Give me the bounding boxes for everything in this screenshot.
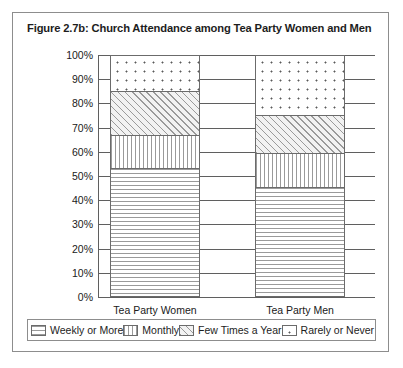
- legend-swatch-diagonal-hatch-icon: [179, 325, 194, 336]
- legend-swatch-horizontal-lines-icon: [31, 325, 46, 336]
- legend-item-rarely-or-never[interactable]: Rarely or Never: [282, 324, 375, 336]
- ytick-label-70: 70%: [72, 122, 93, 134]
- ytick-label-80: 80%: [72, 97, 93, 109]
- xtick-label-tea-party-women: Tea Party Women: [110, 304, 200, 316]
- ytick-label-30: 30%: [72, 218, 93, 230]
- legend-item-few-times-a-year[interactable]: Few Times a Year: [179, 324, 281, 336]
- chart-title: Figure 2.7b: Church Attendance among Tea…: [27, 22, 372, 34]
- legend-label-weekly-or-more: Weekly or More: [50, 324, 123, 336]
- ytick-label-40: 40%: [72, 194, 93, 206]
- bar-tea-party-women[interactable]: [110, 55, 200, 297]
- ytick-label-10: 10%: [72, 267, 93, 279]
- gridline-0: 0%: [99, 297, 375, 298]
- ytick-label-90: 90%: [72, 73, 93, 85]
- segment-men-rarely-or-never[interactable]: [256, 56, 344, 116]
- segment-men-few-times-a-year[interactable]: [256, 116, 344, 154]
- legend-swatch-dots-icon: [282, 325, 297, 336]
- ytick-label-0: 0%: [78, 291, 93, 303]
- legend-label-monthly: Monthly: [142, 324, 179, 336]
- ytick-label-20: 20%: [72, 243, 93, 255]
- legend-item-weekly-or-more[interactable]: Weekly or More: [31, 324, 123, 336]
- plot-area: 100% 90% 80% 70% 60% 50% 40% 30% 20% 10%: [99, 55, 375, 297]
- legend-label-rarely-or-never: Rarely or Never: [301, 324, 375, 336]
- segment-women-weekly-or-more[interactable]: [111, 169, 199, 296]
- segment-men-weekly-or-more[interactable]: [256, 188, 344, 296]
- segment-women-monthly[interactable]: [111, 136, 199, 168]
- legend-item-monthly[interactable]: Monthly: [123, 324, 179, 336]
- segment-men-monthly[interactable]: [256, 154, 344, 188]
- figure-frame: Figure 2.7b: Church Attendance among Tea…: [12, 12, 389, 352]
- segment-women-few-times-a-year[interactable]: [111, 92, 199, 136]
- ytick-label-60: 60%: [72, 146, 93, 158]
- ytick-label-100: 100%: [66, 49, 93, 61]
- ytick-label-50: 50%: [72, 170, 93, 182]
- chart-legend: Weekly or More Monthly Few Times a Year …: [27, 319, 376, 341]
- bar-tea-party-men[interactable]: [255, 55, 345, 297]
- legend-label-few-times-a-year: Few Times a Year: [198, 324, 281, 336]
- segment-women-rarely-or-never[interactable]: [111, 56, 199, 92]
- legend-swatch-vertical-lines-icon: [123, 325, 138, 336]
- xtick-label-tea-party-men: Tea Party Men: [255, 304, 345, 316]
